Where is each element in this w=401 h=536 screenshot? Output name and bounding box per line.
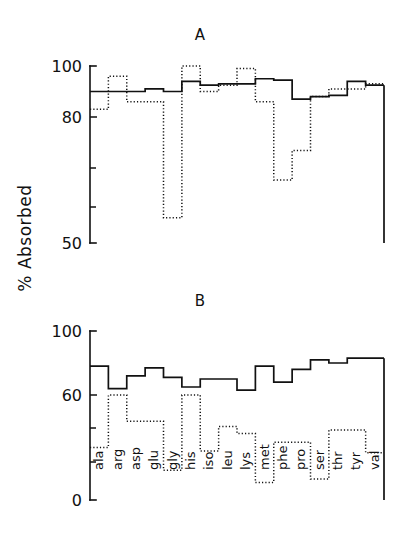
x-axis-category-label: gly (165, 450, 180, 470)
x-axis-category-label: tyr (348, 451, 363, 470)
y-axis-title-container: % Absorbed (2, 0, 42, 536)
x-axis-category-label: glu (146, 450, 161, 470)
panel-b-series-solid (90, 358, 384, 390)
y-axis-tick-label: 50 (62, 234, 82, 253)
x-axis-category-label: iso (201, 452, 216, 470)
figure-container: % Absorbed A 1008050 B 100600 alaargaspg… (0, 0, 401, 536)
x-axis-category-label: phe (275, 446, 290, 471)
panel-b-tick-labels: 100600 (51, 322, 82, 510)
x-axis-category-label: arg (110, 449, 125, 470)
x-axis-category-label: thr (330, 451, 345, 470)
x-axis-category-labels: alaargaspgluglyhisisoleulysmetpheprosert… (91, 444, 382, 470)
x-axis-category-label: val (367, 451, 382, 470)
y-axis-title: % Absorbed (15, 153, 35, 323)
panel-a-axis (90, 66, 384, 243)
x-axis-category-label: ala (91, 450, 106, 470)
panel-b-title: B (195, 292, 205, 310)
x-axis-category-label: asp (128, 447, 143, 470)
y-axis-tick-label: 100 (51, 57, 82, 76)
x-axis-category-label: ser (312, 449, 327, 470)
x-axis-category-label: his (183, 451, 198, 470)
y-axis-tick-label: 0 (72, 491, 82, 510)
y-axis-tick-label: 60 (62, 386, 82, 405)
y-axis-tick-label: 80 (62, 108, 82, 127)
panel-b: B 100600 alaargaspgluglyhisisoleulysmetp… (51, 292, 384, 510)
panel-a-series-dotted (90, 66, 384, 218)
chart-svg: A 1008050 B 100600 alaargaspgluglyhisiso… (0, 0, 401, 536)
x-axis-category-label: leu (220, 450, 235, 470)
y-axis-tick-label: 100 (51, 322, 82, 341)
x-axis-category-label: met (257, 444, 272, 470)
panel-b-axis (90, 331, 384, 500)
panel-a: A 1008050 (51, 26, 384, 253)
x-axis-category-label: lys (238, 452, 253, 470)
panel-a-title: A (195, 26, 206, 44)
panel-a-tick-labels: 1008050 (51, 57, 82, 253)
x-axis-category-label: pro (293, 449, 308, 470)
